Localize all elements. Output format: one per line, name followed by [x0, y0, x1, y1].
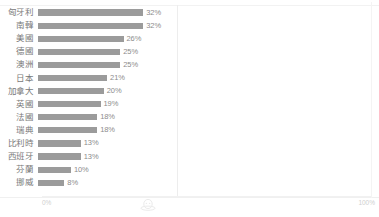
bar	[38, 49, 120, 55]
bar-row: 英國19%	[0, 98, 379, 111]
bar-track: 21%	[38, 71, 379, 84]
bar-value-label: 32%	[146, 9, 161, 17]
category-label: 英國	[0, 100, 38, 109]
bar	[38, 140, 81, 146]
bar	[38, 75, 107, 81]
bar-value-label: 18%	[100, 126, 115, 134]
bar-row: 日本21%	[0, 71, 379, 84]
bar-value-label: 10%	[74, 166, 89, 174]
bar-value-label: 26%	[127, 35, 142, 43]
bar	[38, 153, 81, 159]
bar-chart: 匈牙利32%南韓32%美國26%德國25%澳洲25%日本21%加拿大20%英國1…	[0, 0, 379, 217]
bar-value-label: 19%	[104, 100, 119, 108]
category-label: 美國	[0, 34, 38, 43]
category-label: 比利時	[0, 139, 38, 148]
category-label: 芬蘭	[0, 165, 38, 174]
bar-track: 32%	[38, 6, 379, 19]
bar-row: 美國26%	[0, 32, 379, 45]
bar-value-label: 8%	[67, 179, 78, 187]
bar-value-label: 18%	[100, 113, 115, 121]
bar-row: 法國18%	[0, 111, 379, 124]
bar	[38, 36, 124, 42]
bar-track: 13%	[38, 137, 379, 150]
bar-value-label: 13%	[84, 153, 99, 161]
category-label: 加拿大	[0, 87, 38, 96]
bar	[38, 114, 97, 120]
bar	[38, 180, 64, 186]
bar	[38, 167, 71, 173]
bar-track: 13%	[38, 150, 379, 163]
bar-row: 加拿大20%	[0, 85, 379, 98]
bar-value-label: 25%	[123, 61, 138, 69]
category-label: 西班牙	[0, 152, 38, 161]
x-axis-line	[42, 196, 371, 197]
category-label: 瑞典	[0, 126, 38, 135]
bar-row: 西班牙13%	[0, 150, 379, 163]
category-label: 挪威	[0, 178, 38, 187]
category-label: 澳洲	[0, 60, 38, 69]
bar-track: 26%	[38, 32, 379, 45]
category-label: 匈牙利	[0, 8, 38, 17]
bar-track: 19%	[38, 98, 379, 111]
bar-row: 芬蘭10%	[0, 163, 379, 176]
bar-value-label: 21%	[110, 74, 125, 82]
x-axis-tick-max: 100%	[358, 199, 375, 207]
bar-track: 18%	[38, 111, 379, 124]
bar	[38, 23, 143, 29]
category-label: 南韓	[0, 21, 38, 30]
bar-row: 瑞典18%	[0, 124, 379, 137]
bar-track: 25%	[38, 58, 379, 71]
bar	[38, 101, 101, 107]
bar-track: 10%	[38, 163, 379, 176]
category-label: 法國	[0, 113, 38, 122]
x-axis: 0% 100%	[0, 196, 379, 217]
bar	[38, 62, 120, 68]
bar	[38, 9, 143, 15]
bar-value-label: 20%	[107, 87, 122, 95]
bar-row: 比利時13%	[0, 137, 379, 150]
category-label: 德國	[0, 47, 38, 56]
bar-row: 南韓32%	[0, 19, 379, 32]
bar-value-label: 13%	[84, 139, 99, 147]
bar-track: 18%	[38, 124, 379, 137]
x-axis-tick-min: 0%	[42, 199, 51, 207]
bar	[38, 88, 104, 94]
bar-rows: 匈牙利32%南韓32%美國26%德國25%澳洲25%日本21%加拿大20%英國1…	[0, 6, 379, 189]
bar-track: 25%	[38, 45, 379, 58]
bar-value-label: 25%	[123, 48, 138, 56]
bar	[38, 127, 97, 133]
bar-row: 匈牙利32%	[0, 6, 379, 19]
bar-row: 挪威8%	[0, 176, 379, 189]
bar-row: 德國25%	[0, 45, 379, 58]
bar-value-label: 32%	[146, 22, 161, 30]
category-label: 日本	[0, 74, 38, 83]
bar-row: 澳洲25%	[0, 58, 379, 71]
watermark-icon	[140, 198, 156, 212]
bar-track: 8%	[38, 176, 379, 189]
bar-track: 32%	[38, 19, 379, 32]
bar-track: 20%	[38, 85, 379, 98]
